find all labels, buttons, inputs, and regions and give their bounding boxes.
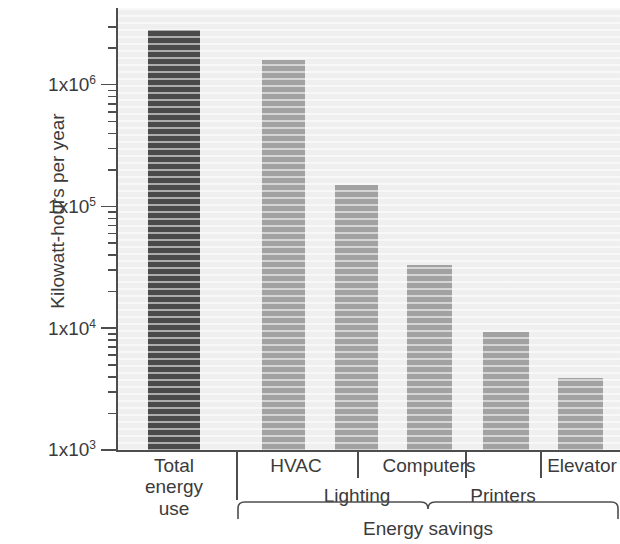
x-label-line: Elevator: [522, 455, 620, 477]
y-tick-minor: [108, 354, 117, 356]
x-label-line: energy: [129, 476, 219, 497]
y-tick-minor: [108, 333, 117, 335]
y-tick-exponent: 4: [89, 317, 96, 331]
y-tick-minor: [108, 225, 117, 227]
group-bracket-label: Energy savings: [236, 518, 620, 540]
y-tick-label-1e5: 1x105: [48, 196, 96, 218]
y-tick-minor: [108, 26, 117, 28]
y-tick-exponent: 6: [89, 73, 96, 87]
y-tick-minor: [108, 218, 117, 220]
y-tick-minor: [108, 233, 117, 235]
y-tick-mantissa: 1x10: [48, 439, 89, 460]
bar-lighting: [335, 185, 378, 450]
y-tick-minor: [108, 111, 117, 113]
bar-hvac: [262, 60, 305, 450]
bar-chart-figure: Kilowatt-hours per year 1x106 1x105 1x10…: [0, 0, 620, 544]
y-tick-mantissa: 1x10: [48, 74, 89, 95]
y-tick-minor: [108, 169, 117, 171]
y-tick-exponent: 3: [89, 438, 96, 452]
y-tick-major-1e3: [101, 449, 117, 451]
y-tick-minor: [108, 346, 117, 348]
y-tick-minor: [108, 364, 117, 366]
y-tick-minor: [108, 291, 117, 293]
y-tick-minor: [108, 413, 117, 415]
x-label-line: Computers: [359, 455, 499, 477]
y-tick-minor: [108, 339, 117, 341]
y-tick-minor: [108, 90, 117, 92]
y-tick-label-1e3: 1x103: [48, 439, 96, 461]
y-tick-minor: [108, 148, 117, 150]
y-tick-minor: [108, 96, 117, 98]
x-label-line: HVAC: [236, 455, 356, 477]
y-tick-label-1e4: 1x104: [48, 318, 96, 340]
bar-elevator: [558, 378, 603, 450]
y-tick-mantissa: 1x10: [48, 318, 89, 339]
y-tick-minor: [108, 391, 117, 393]
y-tick-minor: [108, 242, 117, 244]
y-tick-minor: [108, 103, 117, 105]
y-tick-minor: [108, 121, 117, 123]
x-label-computers: Computers: [359, 455, 499, 477]
x-axis-line: [116, 450, 620, 452]
y-tick-major-1e6: [101, 84, 117, 86]
y-tick-minor: [108, 133, 117, 135]
y-tick-major-1e5: [101, 206, 117, 208]
bar-total-energy-use: [148, 30, 200, 450]
y-axis-line: [116, 8, 118, 451]
x-label-line: Total: [129, 455, 219, 476]
y-tick-minor: [108, 211, 117, 213]
plot-area: [118, 8, 620, 450]
x-label-line: use: [129, 498, 219, 519]
y-tick-minor: [108, 269, 117, 271]
y-tick-mantissa: 1x10: [48, 196, 89, 217]
y-tick-minor: [108, 254, 117, 256]
y-tick-label-1e6: 1x106: [48, 74, 96, 96]
bar-printers: [483, 332, 529, 450]
bar-computers: [407, 265, 452, 450]
y-tick-minor: [108, 376, 117, 378]
energy-savings-brace-icon: [236, 500, 620, 520]
x-label-hvac: HVAC: [236, 455, 356, 477]
x-label-total-energy-use: Totalenergyuse: [129, 455, 219, 519]
x-label-elevator: Elevator: [522, 455, 620, 477]
y-tick-minor: [108, 47, 117, 49]
y-tick-major-1e4: [101, 327, 117, 329]
y-axis-tick-labels: 1x106 1x105 1x104 1x103: [0, 0, 96, 544]
y-tick-exponent: 5: [89, 195, 96, 209]
